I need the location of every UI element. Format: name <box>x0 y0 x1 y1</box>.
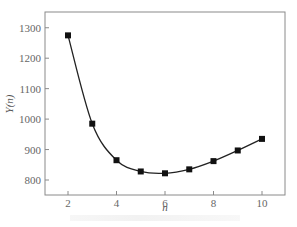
y-tick-label: 1000 <box>19 113 42 125</box>
y-tick-label: 1300 <box>19 22 42 34</box>
data-point-marker <box>65 32 71 38</box>
data-point-marker <box>259 136 265 142</box>
y-axis-label: Y(n) <box>3 94 16 113</box>
x-tick-label: 4 <box>114 197 120 209</box>
figure-caption <box>70 215 240 221</box>
data-point-marker <box>114 157 120 163</box>
data-line <box>68 35 262 173</box>
y-tick-label: 900 <box>25 144 42 156</box>
x-tick-label: 10 <box>257 197 269 209</box>
y-tick-label: 800 <box>25 174 42 186</box>
x-axis-label: n <box>162 201 168 213</box>
data-point-marker <box>235 147 241 153</box>
data-markers <box>65 32 265 176</box>
data-point-marker <box>138 168 144 174</box>
y-tick-label: 1100 <box>19 83 41 95</box>
data-point-marker <box>186 166 192 172</box>
x-tick-label: 8 <box>211 197 217 209</box>
data-point-marker <box>211 158 217 164</box>
data-point-marker <box>89 121 95 127</box>
data-point-marker <box>162 170 168 176</box>
line-chart: 8009001000110012001300 246810 n Y(n) <box>0 0 297 227</box>
y-tick-label: 1200 <box>19 52 42 64</box>
x-tick-label: 2 <box>65 197 71 209</box>
plot-frame <box>45 12 285 195</box>
